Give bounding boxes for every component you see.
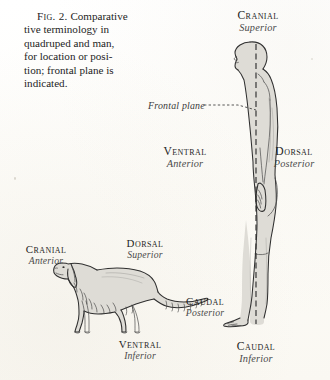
label-term: Cranial xyxy=(216,10,300,22)
label-dog-cranial: Cranial Anterior xyxy=(8,244,84,266)
label-alt: Superior xyxy=(110,250,180,260)
frontal-plane-leader xyxy=(204,96,260,118)
caption-line-3: quadruped and man, xyxy=(24,37,148,50)
label-dog-ventral: Ventral Inferior xyxy=(102,339,178,361)
caption-line-1: Comparative xyxy=(70,10,127,22)
label-term: Ventral xyxy=(102,339,178,350)
figure-caption: Fig. 2. Comparative tive terminology in … xyxy=(24,10,148,90)
label-human-caudal: Caudal Inferior xyxy=(216,341,296,364)
label-alt: Posterior xyxy=(168,308,242,318)
label-term: Dorsal xyxy=(110,238,180,249)
caption-line-2: tive terminology in xyxy=(24,23,148,36)
caption-line-5: tion; frontal plane is xyxy=(24,64,148,77)
label-term: Caudal xyxy=(168,296,242,307)
label-alt: Anterior xyxy=(8,256,84,266)
figure-comparative-terminology: Fig. 2. Comparative tive terminology in … xyxy=(0,0,330,380)
label-term: Dorsal xyxy=(258,146,330,158)
label-alt: Posterior xyxy=(258,159,330,169)
label-dog-dorsal: Dorsal Superior xyxy=(110,238,180,260)
figure-number: Fig. 2. xyxy=(37,10,68,22)
label-alt: Anterior xyxy=(148,159,222,169)
label-dog-caudal: Caudal Posterior xyxy=(168,296,242,318)
label-human-cranial: Cranial Superior xyxy=(216,10,300,33)
label-term: Ventral xyxy=(148,146,222,158)
label-human-ventral: Ventral Anterior xyxy=(148,146,222,169)
frontal-plane-label: Frontal plane xyxy=(148,100,205,111)
label-alt: Inferior xyxy=(216,354,296,364)
paper-speck xyxy=(14,177,16,180)
label-human-dorsal: Dorsal Posterior xyxy=(258,146,330,169)
caption-line-4: for location or posi- xyxy=(24,50,148,63)
label-term: Cranial xyxy=(8,244,84,255)
caption-line-6: indicated. xyxy=(24,77,148,90)
label-term: Caudal xyxy=(216,341,296,353)
label-alt: Superior xyxy=(216,23,300,33)
paper-speck xyxy=(311,58,313,60)
label-alt: Inferior xyxy=(102,351,178,361)
